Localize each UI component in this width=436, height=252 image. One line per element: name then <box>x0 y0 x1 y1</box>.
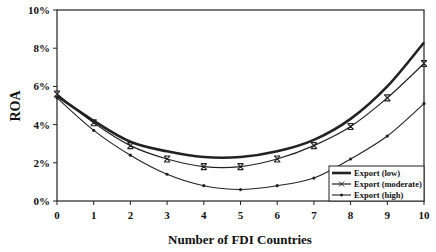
x-tick-label: 10 <box>419 209 431 221</box>
dot-marker <box>202 184 205 187</box>
legend-label: Export (high) <box>354 190 404 200</box>
x-tick-label: 3 <box>164 209 170 221</box>
x-tick-label: 4 <box>201 209 207 221</box>
dot-marker <box>422 102 425 105</box>
x-tick-label: 6 <box>274 209 280 221</box>
dot-marker <box>239 188 242 191</box>
x-axis-label: Number of FDI Countries <box>168 232 312 247</box>
x-tick-label: 8 <box>348 209 354 221</box>
y-tick-label: 0% <box>34 195 51 207</box>
x-tick-label: 1 <box>91 209 97 221</box>
x-marker <box>348 124 354 130</box>
x-tick-label: 5 <box>238 209 244 221</box>
dot-marker <box>276 184 279 187</box>
series-line <box>57 63 424 167</box>
x-tick-label: 2 <box>128 209 134 221</box>
x-marker <box>127 143 133 149</box>
dot-marker <box>166 173 169 176</box>
y-tick-label: 8% <box>34 42 51 54</box>
legend-label: Export (moderate) <box>354 179 422 189</box>
dot-marker <box>55 96 58 99</box>
dot-marker <box>92 129 95 132</box>
x-tick-label: 9 <box>385 209 391 221</box>
x-marker <box>384 95 390 101</box>
dot-marker <box>340 194 343 197</box>
dot-marker <box>129 154 132 157</box>
x-tick-label: 0 <box>54 209 60 221</box>
legend: Export (low)Export (moderate)Export (hig… <box>329 166 424 201</box>
y-tick-label: 4% <box>34 119 51 131</box>
y-axis-label: ROA <box>8 90 23 122</box>
dot-marker <box>386 134 389 137</box>
x-tick-label: 7 <box>311 209 317 221</box>
dot-marker <box>349 157 352 160</box>
y-tick-label: 2% <box>34 157 51 169</box>
legend-label: Export (low) <box>354 168 400 178</box>
dot-marker <box>312 176 315 179</box>
y-tick-label: 6% <box>34 80 51 92</box>
y-tick-label: 10% <box>28 4 50 16</box>
line-chart: 0%2%4%6%8%10%012345678910 Export (low)Ex… <box>0 0 436 252</box>
series-line <box>57 42 424 157</box>
x-marker <box>311 143 317 149</box>
